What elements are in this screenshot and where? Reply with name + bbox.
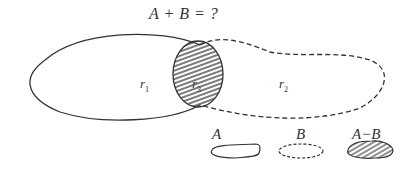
region-label-r3: r3 xyxy=(192,76,201,94)
region-label-r2: r2 xyxy=(279,76,288,94)
r3-sub: 3 xyxy=(197,85,201,94)
legend-b-shape xyxy=(279,144,323,158)
region-b-outline xyxy=(200,40,384,118)
intersection-region xyxy=(173,41,223,107)
legend-a-shape xyxy=(211,144,260,158)
legend-a-minus-b-label: A−B xyxy=(352,126,380,143)
region-label-r1: r1 xyxy=(140,76,149,94)
legend-b-label: B xyxy=(296,126,305,143)
r1-sub: 1 xyxy=(145,85,149,94)
legend-a-minus-b-shape xyxy=(348,141,393,158)
r2-sub: 2 xyxy=(284,85,288,94)
venn-diagram xyxy=(0,0,419,172)
legend-a-label: A xyxy=(212,126,221,143)
diagram-title: A + B = ? xyxy=(149,5,218,23)
